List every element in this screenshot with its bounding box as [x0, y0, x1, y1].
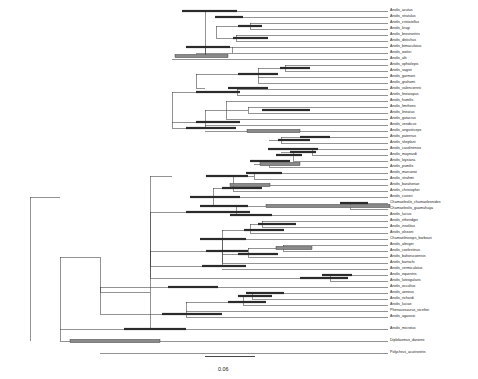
taxon-label: Anolis_acutus: [390, 9, 413, 13]
taxon-label: Anolis_equestris: [390, 273, 417, 277]
node-hpd-bar: [230, 183, 270, 186]
node-hpd-bar: [340, 202, 368, 204]
taxon-label: Anolis_luciae: [390, 303, 411, 307]
node-hpd-bar: [280, 67, 310, 69]
taxon-label: Anolis_agassizi: [390, 315, 415, 319]
taxon-label: Phenacosaurus_nicefori: [390, 309, 429, 313]
taxon-label: Anolis_aeneus: [390, 291, 414, 295]
taxon-label: Anolis_aliniger: [390, 243, 414, 247]
node-hpd-bar: [202, 265, 246, 267]
taxon-label: Anolis_maynardi: [390, 153, 417, 157]
node-hpd-bar: [244, 229, 284, 231]
node-hpd-bar: [238, 295, 272, 297]
taxon-label: Anolis_sagrei: [390, 69, 412, 73]
node-hpd-bar: [206, 250, 248, 252]
node-hpd-bar: [300, 136, 330, 138]
node-hpd-bar: [276, 154, 302, 156]
taxon-label: Chamaelinorops_barbouri: [390, 237, 432, 241]
node-hpd-bar: [186, 46, 230, 48]
taxon-label: Anolis_occultus: [390, 285, 415, 289]
taxon-label: Anolis_pumilis: [390, 165, 413, 169]
taxon-label: Anolis_valenciennii: [390, 87, 421, 91]
node-hpd-bar: [246, 292, 284, 294]
taxon-label: Anolis_cuvieri: [390, 195, 412, 199]
node-hpd-bar: [215, 16, 243, 18]
taxon-label: Anolis_luteogularis: [390, 279, 421, 283]
node-hpd-bar: [186, 127, 236, 129]
taxon-label: Diplolaemus_darwinii: [390, 339, 424, 343]
node-hpd-bar: [250, 160, 290, 162]
node-hpd-bar: [228, 301, 266, 303]
taxon-label: Anolis_lineatus: [390, 111, 414, 115]
taxon-label: Anolis_lineatopus: [390, 93, 419, 97]
taxon-label: Anolis_humilis: [390, 99, 413, 103]
taxon-label: Anolis_vermiculatus: [390, 267, 422, 271]
taxon-label: Polychrus_acutirostris: [390, 351, 426, 355]
taxon-label: Anolis_lucius: [390, 213, 411, 217]
node-hpd-bar: [168, 286, 218, 288]
node-hpd-bar: [175, 54, 228, 57]
taxon-label: Anolis_ophiolepis: [390, 63, 418, 67]
taxon-label: Anolis_richardi: [390, 297, 414, 301]
node-hpd-bar: [228, 87, 268, 89]
node-hpd-bar: [200, 238, 246, 240]
taxon-label: Anolis_loysiana: [390, 159, 415, 163]
taxon-label: Anolis_cristatellus: [390, 21, 419, 25]
taxon-label: Anolis_garmani: [390, 75, 415, 79]
node-hpd-bar: [300, 277, 348, 279]
node-hpd-bar: [190, 196, 240, 198]
taxon-label: Anolis_sheplani: [390, 141, 415, 145]
node-hpd-bar: [238, 253, 278, 255]
node-hpd-bar: [268, 148, 318, 150]
node-hpd-bar: [206, 175, 248, 177]
taxon-label: Anolis_etheridgei: [390, 219, 418, 223]
node-hpd-bar: [222, 187, 262, 189]
node-hpd-bar: [260, 162, 300, 165]
taxon-label: Anolis_carolinensis: [390, 147, 421, 151]
scale-bar-label: 0.06: [218, 366, 229, 372]
node-hpd-bar: [196, 91, 240, 93]
node-hpd-bar: [186, 211, 250, 213]
taxon-label: Anolis_coelestinus: [390, 249, 420, 253]
taxon-label: Anolis_gutacrus: [390, 117, 416, 121]
taxon-label: Anolis_paternus: [390, 135, 416, 139]
taxon-label: Anolis_bimaculatus: [390, 45, 421, 49]
node-hpd-bar: [258, 223, 296, 225]
taxon-label: Anolis_christophei: [390, 189, 420, 193]
taxon-label: Anolis_vendicus: [390, 123, 416, 127]
node-hpd-bar: [238, 25, 262, 27]
node-hpd-bar: [182, 10, 237, 12]
taxon-label: Chamaeleolis_chamaeleonides: [390, 201, 440, 205]
node-hpd-bar: [278, 139, 310, 141]
phylogenetic-tree-figure: Anolis_acutusAnolis_stratulusAnolis_cris…: [0, 0, 478, 379]
node-hpd-bar: [124, 328, 186, 330]
node-hpd-bar: [238, 73, 278, 75]
node-hpd-bar: [70, 339, 160, 342]
vertical-connectors-group: [30, 11, 350, 341]
node-hpd-bar: [230, 214, 272, 216]
taxon-label: Anolis_krugi: [390, 27, 410, 31]
taxon-label: Anolis_olssoni: [390, 231, 413, 235]
node-hpd-bar: [322, 274, 352, 276]
taxon-label: Anolis_bahorucoensis: [390, 255, 426, 259]
node-hpd-bar: [233, 37, 268, 39]
node-bars-group: [70, 10, 390, 343]
node-hpd-bar: [196, 121, 240, 123]
node-hpd-bar: [276, 246, 312, 249]
taxon-label: Anolis_alti: [390, 57, 407, 61]
node-hpd-bar: [262, 109, 310, 111]
taxon-label: Anolis_marcanoi: [390, 171, 417, 175]
taxon-label: Anolis_microtus: [390, 327, 416, 331]
taxon-label: Anolis_distichus: [390, 39, 416, 43]
branch-lines-group: [30, 11, 388, 353]
node-hpd-bar: [247, 129, 300, 132]
node-hpd-bar: [266, 204, 390, 207]
node-hpd-bar: [162, 313, 222, 315]
taxon-label: Anolis_angusticeps: [390, 129, 421, 133]
node-hpd-bar: [290, 151, 316, 153]
taxon-label: Anolis_strahmi: [390, 177, 414, 181]
taxon-label: Anolis_barahonae: [390, 183, 419, 187]
taxon-label: Anolis_bartschi: [390, 261, 415, 265]
taxon-label: Chamaeleolis_guamuhaya: [390, 207, 433, 211]
taxon-label: Anolis_stratulus: [390, 15, 416, 19]
